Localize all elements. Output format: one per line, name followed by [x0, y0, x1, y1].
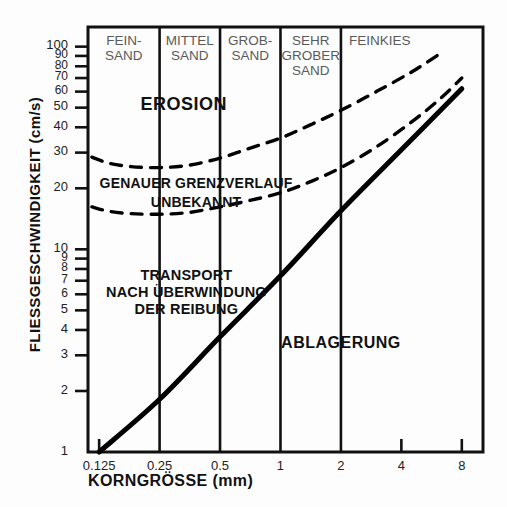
y-tick-label: 2 [24, 382, 68, 397]
region-label-erosion: EROSION [104, 94, 264, 115]
plot-frame [88, 27, 483, 452]
chart-canvas [0, 0, 507, 507]
grain-class-label: GROB- SAND [220, 33, 280, 63]
y-tick-label: 50 [24, 98, 68, 113]
y-tick-label: 100 [24, 37, 68, 52]
region-label-deposition: ABLAGERUNG [251, 334, 431, 352]
x-tick-label: 4 [398, 458, 405, 473]
y-tick-label: 10 [24, 240, 68, 255]
x-tick-label: 0.5 [211, 458, 229, 473]
x-tick-label: 1 [277, 458, 284, 473]
y-tick-label: 4 [24, 321, 68, 336]
grain-class-label: SEHR GROBER SAND [280, 33, 340, 78]
y-tick-label: 30 [24, 143, 68, 158]
y-tick-label: 60 [24, 83, 68, 97]
x-tick-label: 0.25 [147, 458, 172, 473]
x-axis-title: KORNGRÖSSE (mm) [88, 472, 253, 490]
x-tick-label: 0.125 [83, 458, 116, 473]
y-tick-label: 1 [24, 443, 68, 458]
y-tick-label: 6 [24, 286, 68, 300]
grain-class-label: FEIN- SAND [88, 33, 160, 63]
x-tick-label: 2 [337, 458, 344, 473]
region-label-transport: TRANSPORT NACH ÜBERWINDUNG DER REIBUNG [71, 267, 301, 318]
grain-class-label: FEINKIES [349, 33, 481, 48]
x-tick-label: 8 [458, 458, 465, 473]
hjulstrom-diagram: FLIESSGESCHWINDIGKEIT (cm/s) KORNGRÖSSE … [0, 0, 507, 507]
y-tick-label: 3 [24, 346, 68, 361]
y-tick-label: 40 [24, 118, 68, 133]
region-label-boundary-unknown: GENAUER GRENZVERLAUF UNBEKANNT [51, 174, 341, 212]
grain-class-label: MITTEL SAND [160, 33, 220, 63]
y-tick-label: 5 [24, 301, 68, 316]
